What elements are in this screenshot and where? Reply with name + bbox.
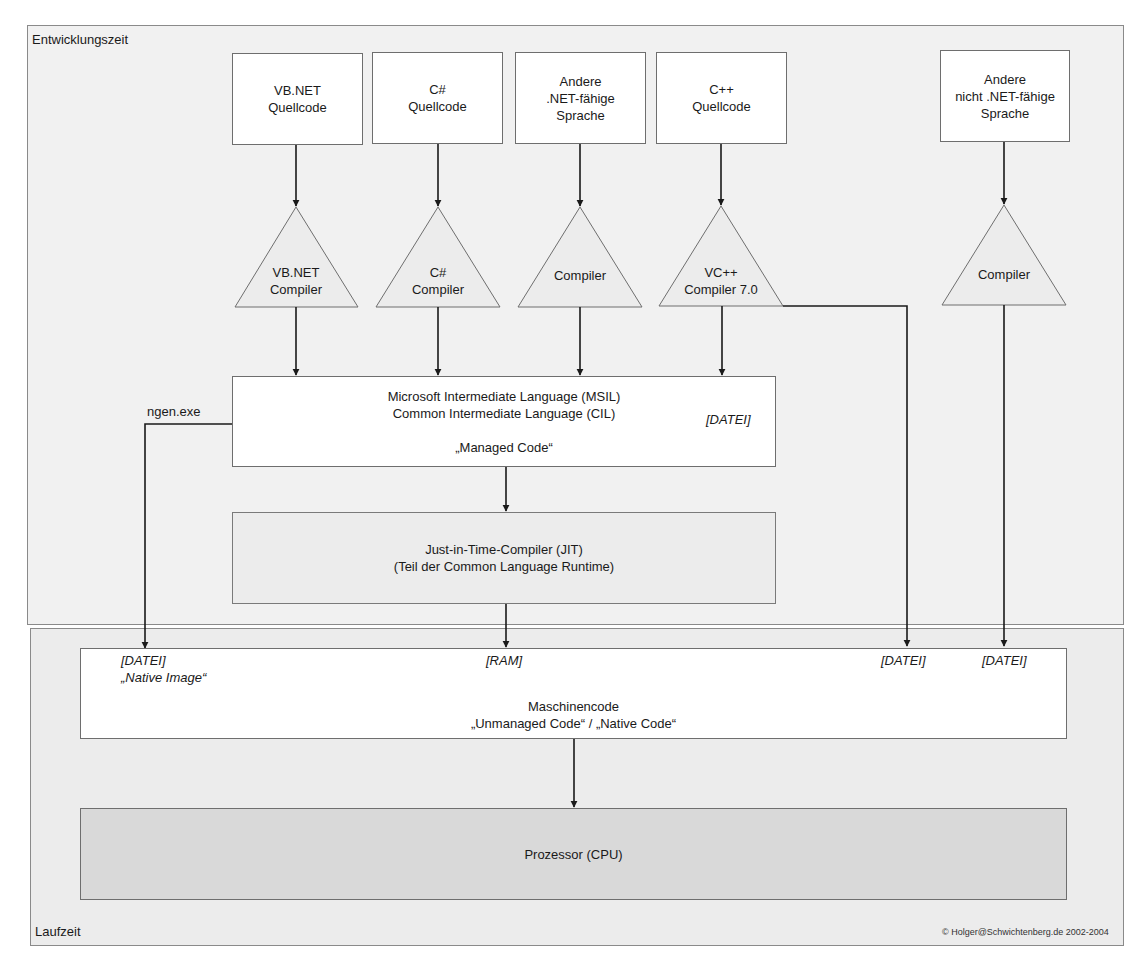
msil-line2: Common Intermediate Language (CIL) [393, 405, 616, 422]
jit-line2: (Teil der Common Language Runtime) [394, 558, 614, 575]
msil-line3: „Managed Code“ [455, 439, 553, 456]
jit-box: Just-in-Time-Compiler (JIT) (Teil der Co… [232, 512, 776, 604]
source-cpp-line1: C++ [709, 81, 734, 98]
source-cpp-line2: Quellcode [692, 98, 751, 115]
ram-tag: [RAM] [486, 653, 522, 668]
development-zone-label: Entwicklungszeit [32, 32, 128, 47]
source-vbnet-box: VB.NET Quellcode [232, 53, 363, 145]
compiler-vcpp-line2: Compiler 7.0 [684, 281, 758, 298]
cpu-label: Prozessor (CPU) [524, 846, 622, 863]
runtime-zone-label: Laufzeit [35, 924, 81, 939]
compiler-vbnet-line2: Compiler [270, 281, 322, 298]
msil-file-tag: [DATEI] [706, 412, 751, 427]
source-other-net-line2: .NET-fähige [546, 90, 615, 107]
compiler-csharp-label: C# Compiler [388, 258, 488, 298]
source-other-net-line3: Sprache [556, 107, 604, 124]
compiler-native-line1: Compiler [978, 266, 1030, 283]
msil-line1: Microsoft Intermediate Language (MSIL) [388, 388, 621, 405]
source-non-net-line3: Sprache [981, 105, 1029, 122]
machine-code-line1: Maschinencode [528, 698, 619, 715]
source-csharp-box: C# Quellcode [372, 52, 503, 144]
jit-line1: Just-in-Time-Compiler (JIT) [425, 541, 583, 558]
compiler-vcpp-line1: VC++ [704, 264, 737, 281]
copyright-text: © Holger@Schwichtenberg.de 2002-2004 [942, 927, 1109, 937]
native-image-label: „Native Image“ [121, 670, 206, 685]
source-other-net-line1: Andere [560, 73, 602, 90]
source-non-net-line2: nicht .NET-fähige [955, 88, 1055, 105]
native-compiler-file-tag: [DATEI] [982, 653, 1027, 668]
source-vbnet-line1: VB.NET [274, 82, 321, 99]
vcpp-file-tag: [DATEI] [881, 653, 926, 668]
machine-code-line2: „Unmanaged Code“ / „Native Code“ [471, 715, 676, 732]
compiler-csharp-line2: Compiler [412, 281, 464, 298]
source-non-net-line1: Andere [984, 71, 1026, 88]
compiler-other-line1: Compiler [554, 267, 606, 284]
compiler-vbnet-line1: VB.NET [273, 264, 320, 281]
native-image-file-tag: [DATEI] [121, 653, 166, 668]
source-non-net-box: Andere nicht .NET-fähige Sprache [940, 50, 1070, 142]
cpu-box: Prozessor (CPU) [80, 808, 1067, 900]
msil-box: Microsoft Intermediate Language (MSIL) C… [232, 376, 776, 467]
source-csharp-line2: Quellcode [408, 98, 467, 115]
source-cpp-box: C++ Quellcode [656, 52, 787, 144]
compiler-native-label: Compiler [954, 263, 1054, 283]
compiler-other-label: Compiler [530, 264, 630, 284]
source-csharp-line1: C# [429, 81, 446, 98]
source-vbnet-line2: Quellcode [268, 99, 327, 116]
compiler-csharp-line1: C# [430, 264, 447, 281]
compiler-vcpp-label: VC++ Compiler 7.0 [666, 258, 776, 298]
ngen-label: ngen.exe [147, 404, 201, 419]
compiler-vbnet-label: VB.NET Compiler [246, 258, 346, 298]
source-other-net-box: Andere .NET-fähige Sprache [515, 52, 646, 144]
